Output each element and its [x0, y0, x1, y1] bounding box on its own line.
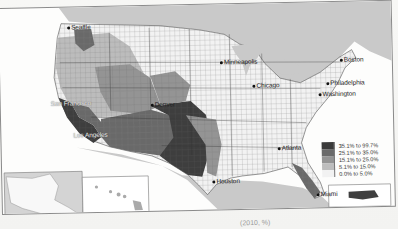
- city-label-miami: Miami: [317, 190, 338, 197]
- city-label-philadelphia: Philadelphia: [326, 78, 364, 86]
- city-name: Houston: [216, 177, 240, 184]
- city-label-boston: Boston: [340, 55, 364, 62]
- city-label-atlanta: Atlanta: [278, 144, 302, 151]
- map-caption: (2010, %): [240, 219, 270, 227]
- city-dot-icon: [326, 82, 329, 85]
- city-dot-icon: [151, 104, 154, 107]
- city-label-denver: Denver: [151, 100, 176, 108]
- city-dot-icon: [67, 26, 70, 29]
- legend-label: 5.1% to 15.0%: [339, 163, 376, 170]
- city-name: Minneapolis: [224, 58, 258, 66]
- city-label-washington: Washington: [318, 90, 355, 98]
- legend-item: 0.0% to 5.0%: [322, 169, 386, 177]
- alaska-inset: [4, 171, 83, 214]
- city-name: Philadelphia: [330, 78, 364, 86]
- city-label-san-francisco: San Francisco: [51, 99, 91, 107]
- city-dot-icon: [319, 93, 322, 96]
- city-dot-icon: [220, 61, 223, 64]
- city-name: Denver: [155, 100, 176, 107]
- map-frame: Seattle San Francisco Los Angeles Denver…: [0, 0, 396, 215]
- city-dot-icon: [212, 180, 215, 183]
- legend-label: 15.1% to 25.0%: [339, 156, 379, 163]
- city-name: Seattle: [71, 23, 91, 30]
- hawaii-inset: [82, 176, 149, 214]
- city-dot-icon: [278, 147, 281, 150]
- city-name: Miami: [321, 190, 338, 197]
- city-name: San Francisco: [51, 99, 91, 107]
- city-dot-icon: [317, 193, 320, 196]
- city-label-minneapolis: Minneapolis: [220, 58, 258, 66]
- city-name: Boston: [344, 55, 364, 62]
- city-label-chicago: Chicago: [252, 81, 279, 89]
- legend-label: 25.1% to 35.0%: [339, 149, 379, 156]
- city-dot-icon: [252, 84, 255, 87]
- city-dot-icon: [340, 59, 343, 62]
- city-name: Chicago: [256, 81, 279, 88]
- us-county-map: [0, 1, 395, 214]
- legend-label: 0.0% to 5.0%: [339, 170, 372, 177]
- scanned-page: Seattle San Francisco Los Angeles Denver…: [0, 0, 398, 229]
- city-name: Los Angeles: [73, 131, 107, 139]
- city-label-los-angeles: Los Angeles: [73, 131, 107, 139]
- city-name: Atlanta: [282, 144, 302, 151]
- map-legend: 35.1% to 99.7% 25.1% to 35.0% 15.1% to 2…: [322, 141, 387, 177]
- legend-swatch: [322, 170, 335, 177]
- legend-label: 35.1% to 99.7%: [339, 142, 379, 149]
- city-name: Washington: [322, 90, 355, 98]
- city-label-seattle: Seattle: [67, 23, 91, 30]
- puerto-rico-inset: [328, 184, 390, 207]
- city-label-houston: Houston: [212, 177, 240, 185]
